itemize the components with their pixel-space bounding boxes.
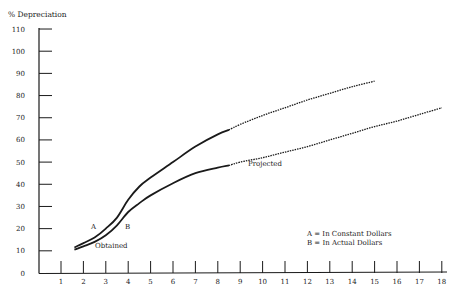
y-tick-label: 10 <box>16 247 25 255</box>
projected-label: Projected <box>248 160 282 168</box>
y-tick-label: 70 <box>16 114 25 122</box>
x-tick-label: 2 <box>81 278 85 286</box>
legend-a: A = In Constant Dollars <box>306 230 392 238</box>
x-axis <box>39 272 447 274</box>
obtained-label: Obtained <box>95 242 128 250</box>
x-tick-label: 18 <box>437 278 446 286</box>
x-tick-label: 12 <box>303 278 312 286</box>
x-tick-label: 15 <box>370 278 379 286</box>
y-tick-label: 80 <box>16 92 25 100</box>
x-tick-label: 5 <box>148 278 152 286</box>
label-b: B <box>125 223 130 231</box>
y-tick-label: 50 <box>16 159 25 167</box>
label-a: A <box>90 223 97 231</box>
series-b-obtained <box>74 165 229 249</box>
x-tick-label: 3 <box>104 278 108 286</box>
y-tick-label: 110 <box>12 26 25 34</box>
x-tick-label: 11 <box>281 278 290 286</box>
series-a-projected <box>229 81 375 130</box>
x-tick-label: 17 <box>415 278 424 286</box>
y-tick-label: 60 <box>16 136 25 144</box>
y-tick-label: 90 <box>16 70 25 78</box>
x-tick-label: 13 <box>325 278 334 286</box>
depreciation-chart: 0102030405060708090100110123456789101112… <box>0 0 467 297</box>
x-tick-label: 16 <box>393 278 402 286</box>
series-a-obtained <box>74 130 229 248</box>
legend-b: B = In Actual Dollars <box>307 239 383 247</box>
y-tick-label: 0 <box>21 270 25 278</box>
x-tick-label: 6 <box>171 278 176 286</box>
x-tick-label: 14 <box>348 278 357 286</box>
x-tick-label: 8 <box>216 278 220 286</box>
y-axis-title: % Depreciation <box>8 10 67 19</box>
y-tick-label: 40 <box>16 181 25 189</box>
y-tick-label: 30 <box>16 203 25 211</box>
x-tick-label: 10 <box>258 278 267 286</box>
y-tick-label: 20 <box>16 225 25 233</box>
x-tick-label: 7 <box>193 278 197 286</box>
x-tick-label: 9 <box>238 278 242 286</box>
y-tick-label: 100 <box>12 48 25 56</box>
x-tick-label: 1 <box>59 278 63 286</box>
x-tick-label: 4 <box>126 278 131 286</box>
series-b-projected <box>229 108 442 166</box>
